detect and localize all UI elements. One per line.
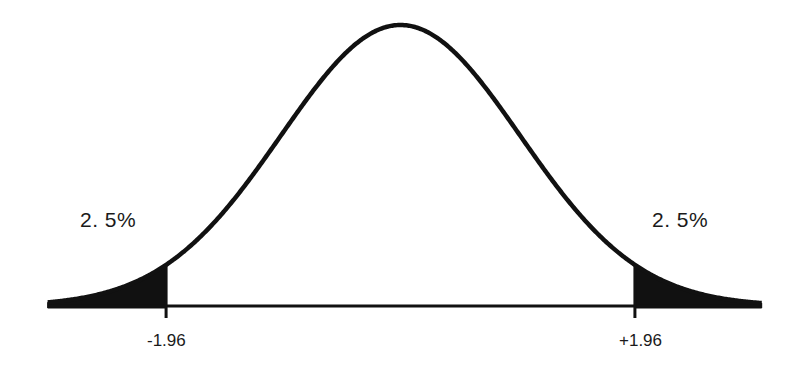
normal-distribution-chart (0, 0, 804, 375)
bell-curve (48, 25, 762, 303)
right-critical-value-label: +1.96 (619, 331, 662, 351)
right-tail-area-label: 2. 5% (652, 208, 708, 232)
left-critical-value-label: -1.96 (147, 331, 186, 351)
left-tail-area-label: 2. 5% (80, 208, 136, 232)
